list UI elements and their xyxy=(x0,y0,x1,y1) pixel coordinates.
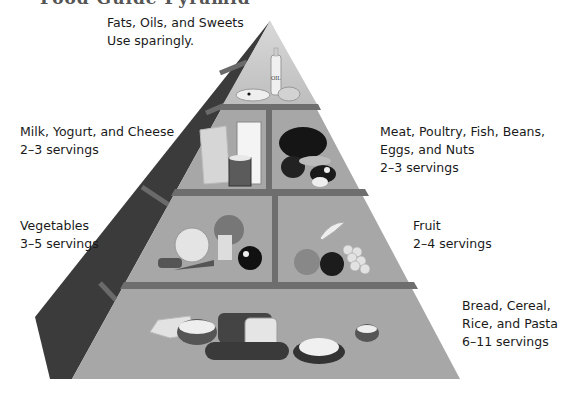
label-milk: Milk, Yogurt, and Cheese 2–3 servings xyxy=(20,123,174,159)
label-fruit: Fruit 2–4 servings xyxy=(413,217,492,253)
candy-icon xyxy=(278,87,300,101)
group-name-line1: Bread, Cereal, xyxy=(462,297,558,315)
chicken-icon xyxy=(279,127,327,159)
group-servings: 2–3 servings xyxy=(380,159,545,177)
group-name: Fats, Oils, and Sweets xyxy=(107,14,244,32)
group-servings: Use sparingly. xyxy=(107,32,244,50)
french-bread-icon xyxy=(205,342,289,360)
cheese-icon xyxy=(200,126,230,184)
label-meat: Meat, Poultry, Fish, Beans, Eggs, and Nu… xyxy=(380,123,545,177)
group-name-line2: Eggs, and Nuts xyxy=(380,141,545,159)
label-bread: Bread, Cereal, Rice, and Pasta 6–11 serv… xyxy=(462,297,558,351)
group-name-line1: Meat, Poultry, Fish, Beans, xyxy=(380,123,545,141)
group-servings: 2–4 servings xyxy=(413,235,492,253)
lettuce-icon xyxy=(175,228,209,262)
group-name: Milk, Yogurt, and Cheese xyxy=(20,123,174,141)
group-servings: 3–5 servings xyxy=(20,235,99,253)
egg-icon xyxy=(312,177,328,187)
group-name: Vegetables xyxy=(20,217,99,235)
cake-slice-icon xyxy=(236,89,270,101)
label-fats: Fats, Oils, and Sweets Use sparingly. xyxy=(107,14,244,50)
apple-icon xyxy=(320,252,344,276)
fish-icon xyxy=(299,156,331,166)
label-vegetables: Vegetables 3–5 servings xyxy=(20,217,99,253)
cucumber-icon xyxy=(158,258,182,268)
group-name-line2: Rice, and Pasta xyxy=(462,315,558,333)
group-name: Fruit xyxy=(413,217,492,235)
svg-text:OIL: OIL xyxy=(271,75,281,81)
tomato-icon xyxy=(238,246,262,270)
orange-icon xyxy=(294,249,320,275)
group-servings: 6–11 servings xyxy=(462,333,558,351)
yogurt-cup-icon xyxy=(229,158,251,186)
group-servings: 2–3 servings xyxy=(20,141,174,159)
